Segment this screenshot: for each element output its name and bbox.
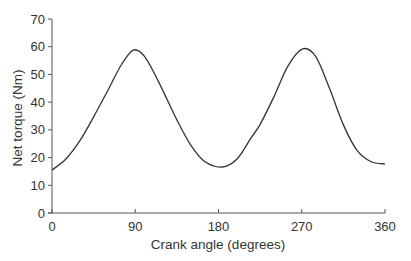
torque-chart: 010203040506070 090180270360 Net torque …	[0, 0, 411, 261]
x-tick-label: 0	[48, 219, 55, 234]
y-axis-title: Net torque (Nm)	[10, 70, 25, 167]
x-tick-label: 270	[291, 219, 313, 234]
y-tick-label: 60	[31, 39, 45, 54]
torque-curve	[52, 48, 385, 170]
y-axis: 010203040506070	[31, 12, 52, 221]
x-tick-label: 90	[128, 219, 142, 234]
x-tick-label: 180	[208, 219, 230, 234]
y-tick-label: 10	[31, 178, 45, 193]
y-tick-label: 0	[38, 206, 45, 221]
x-axis: 090180270360	[48, 209, 396, 234]
y-tick-label: 40	[31, 95, 45, 110]
y-tick-label: 70	[31, 12, 45, 27]
x-axis-title: Crank angle (degrees)	[151, 237, 285, 252]
x-tick-label: 360	[374, 219, 396, 234]
y-tick-label: 20	[31, 150, 45, 165]
y-tick-label: 50	[31, 67, 45, 82]
y-tick-label: 30	[31, 122, 45, 137]
